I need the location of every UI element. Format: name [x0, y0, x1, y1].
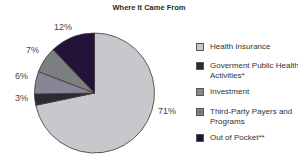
- legend-label: Health Insurance: [210, 42, 298, 52]
- legend-item-health-insurance: Health Insurance: [196, 42, 298, 52]
- legend-swatch: [196, 88, 204, 96]
- legend-label: Investment: [210, 87, 298, 97]
- legend-swatch: [196, 62, 204, 70]
- label-health-insurance: 71%: [158, 106, 176, 116]
- label-third-party: 7%: [26, 45, 39, 55]
- legend-item-out-of-pocket: Out of Pocket**: [196, 133, 298, 143]
- legend-swatch: [196, 108, 204, 116]
- label-out-of-pocket: 12%: [54, 22, 72, 32]
- legend-item-investment: Investment: [196, 87, 298, 97]
- label-government: 3%: [15, 93, 28, 103]
- legend-item-government: Goverment Public Health Activities*: [196, 61, 298, 81]
- legend-item-third-party: Third-Party Payers and Programs: [196, 107, 298, 127]
- legend-swatch: [196, 134, 204, 142]
- legend-label: Goverment Public Health Activities*: [210, 61, 298, 81]
- legend-label: Out of Pocket**: [210, 133, 298, 143]
- pie-slices: [35, 33, 155, 153]
- legend-swatch: [196, 43, 204, 51]
- legend-label: Third-Party Payers and Programs: [210, 107, 298, 127]
- label-investment: 6%: [15, 71, 28, 81]
